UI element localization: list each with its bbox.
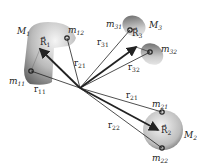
vector-hat-icon: → xyxy=(162,122,166,128)
diagram-canvas: M1 R1 m12 m11 r11 r21 m31 R3 M3 m32 r31 … xyxy=(0,0,197,163)
vector-r31 xyxy=(80,30,130,88)
label-r32: r32 xyxy=(128,62,140,73)
label-m31: m31 xyxy=(106,19,122,30)
label-r31: r31 xyxy=(97,37,109,48)
label-M3: M3 xyxy=(148,20,162,31)
label-M1: M1 xyxy=(16,26,30,37)
label-r21-lower: r21 xyxy=(126,90,138,101)
label-m12: m12 xyxy=(68,25,84,36)
label-r22: r22 xyxy=(108,120,120,131)
vector-r21 xyxy=(80,88,162,112)
label-m21: m21 xyxy=(152,99,168,110)
vector-hat-icon: → xyxy=(133,25,137,31)
label-r21-upper: r21 xyxy=(74,58,86,69)
label-M2: M2 xyxy=(183,130,197,141)
label-m32: m32 xyxy=(161,44,177,55)
label-m22: m22 xyxy=(152,153,168,163)
vector-hat-icon: → xyxy=(41,34,45,40)
label-m11: m11 xyxy=(9,76,25,87)
label-r11: r11 xyxy=(34,84,46,95)
